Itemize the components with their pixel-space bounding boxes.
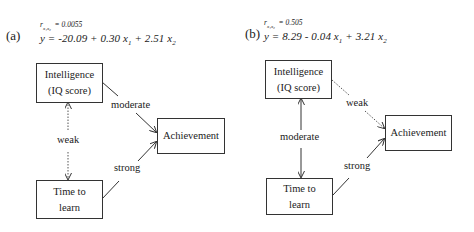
edge-label-moderate: moderate — [280, 131, 319, 142]
edge-intelligence-achievement-a-head — [136, 113, 156, 132]
node-text: Achievement — [163, 128, 219, 144]
edge-intelligence-achievement-a — [102, 82, 118, 96]
correlation-label: rx₁x₂ = 0.0055 — [40, 20, 82, 31]
edge-time-achievement-a-head — [138, 142, 156, 161]
node-text: Achievement — [391, 125, 447, 141]
correlation-label: rx₁x₂ = 0.505 — [264, 18, 302, 29]
edge-intelligence-achievement-b — [332, 80, 349, 95]
edge-label-strong: strong — [344, 160, 370, 171]
diagram-panel-a: (a) rx₁x₂ = 0.0055 y = -20.09 + 0.30 x1 … — [0, 0, 237, 232]
edge-label-moderate: moderate — [111, 99, 150, 110]
node-intelligence: Intelligence (IQ score) — [265, 60, 332, 99]
node-achievement: Achievement — [157, 118, 225, 154]
node-text: (IQ score) — [277, 80, 320, 96]
edge-time-achievement-b-head — [367, 139, 384, 158]
edge-label-strong: strong — [114, 162, 140, 173]
edge-label-weak: weak — [57, 134, 79, 145]
node-intelligence: Intelligence (IQ score) — [36, 63, 103, 103]
edge-intelligence-achievement-b-head — [365, 111, 384, 128]
panel-label: (a) — [6, 28, 20, 44]
regression-equation: y = -20.09 + 0.30 x1 + 2.51 x2 — [40, 32, 176, 47]
edge-label-weak: weak — [346, 97, 368, 108]
node-text: Intelligence — [274, 64, 324, 80]
node-time-to-learn: Time to learn — [266, 178, 333, 215]
panel-label: (b) — [245, 26, 260, 42]
edge-time-achievement-b — [333, 178, 349, 195]
node-achievement: Achievement — [385, 115, 452, 151]
node-text: Time to — [53, 184, 86, 200]
node-text: Time to — [283, 181, 316, 197]
regression-equation: y = 8.29 - 0.04 x1 + 3.21 x2 — [264, 30, 387, 45]
edge-time-achievement-a — [102, 181, 119, 199]
diagram-panel-b: (b) rx₁x₂ = 0.505 y = 8.29 - 0.04 x1 + 3… — [237, 0, 474, 232]
node-text: learn — [59, 200, 80, 216]
node-text: (IQ score) — [48, 83, 91, 99]
node-time-to-learn: Time to learn — [36, 180, 103, 219]
node-text: learn — [289, 197, 310, 213]
node-text: Intelligence — [45, 67, 95, 83]
